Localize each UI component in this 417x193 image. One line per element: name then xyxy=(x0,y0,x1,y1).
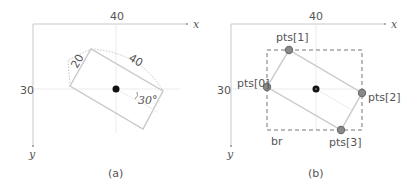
point-2 xyxy=(358,89,365,96)
y-tick-label: 30 xyxy=(217,84,231,97)
y-tick-label: 30 xyxy=(20,84,34,97)
caption-a: (a) xyxy=(108,167,123,180)
x-axis-arrow-icon xyxy=(384,23,386,25)
point-0-label: pts[0] xyxy=(237,77,270,90)
point-3-label: pts[3] xyxy=(329,136,362,149)
center-point-inner xyxy=(315,88,317,90)
x-axis-arrow-icon xyxy=(186,23,188,25)
x-tick-label: 40 xyxy=(110,10,124,23)
y-axis-arrow-icon xyxy=(230,145,232,147)
point-3 xyxy=(337,126,344,133)
y-axis-arrow-icon xyxy=(32,145,34,147)
y-axis-label: y xyxy=(226,148,234,161)
x-axis-label: x xyxy=(391,18,398,31)
panel-b: x y 40 30 br pts[0] pts[1] pts[2] pts[3]… xyxy=(217,10,401,180)
x-axis-label: x xyxy=(193,18,200,31)
x-tick-label: 40 xyxy=(309,10,323,23)
rotated-rect-diagram: x y 40 30 30° 20 40 (a) x y 40 30 xyxy=(0,0,417,193)
angle-line xyxy=(316,89,352,110)
center-point xyxy=(113,86,120,93)
point-1 xyxy=(285,46,292,53)
point-2-label: pts[2] xyxy=(368,91,401,104)
y-axis-label: y xyxy=(28,148,36,161)
angle-label: 30° xyxy=(138,94,158,107)
caption-b: (b) xyxy=(308,167,324,180)
bounding-rect-label: br xyxy=(271,135,283,148)
panel-a: x y 40 30 30° 20 40 (a) xyxy=(20,10,200,180)
point-1-label: pts[1] xyxy=(276,31,309,44)
height-label: 20 xyxy=(68,52,86,71)
